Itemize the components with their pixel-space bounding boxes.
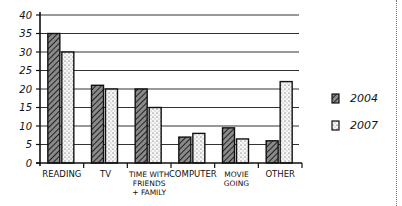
x-axis: READINGTVTIME WITHFRIENDS+ FAMILYCOMPUTE… — [36, 163, 302, 197]
bar-2007 — [62, 52, 74, 163]
y-tick-label: 25 — [19, 65, 32, 76]
x-category-label: + FAMILY — [132, 188, 166, 197]
x-category-label: TIME WITH — [128, 170, 169, 179]
y-tick-label: 40 — [19, 10, 32, 21]
legend: 20042007 — [332, 92, 378, 132]
y-tick-label: 30 — [19, 47, 32, 58]
y-axis: 0510152025303540 — [19, 10, 40, 169]
gridlines — [40, 15, 299, 145]
y-tick-label: 0 — [26, 158, 32, 169]
bar-2007 — [280, 82, 292, 163]
legend-label: 2004 — [350, 92, 378, 105]
bar-2004 — [266, 141, 278, 163]
bar-2004 — [135, 89, 147, 163]
dotted-margin-line — [396, 0, 397, 206]
bar-chart: 0510152025303540 READINGTVTIME WITHFRIEN… — [0, 0, 402, 206]
legend-swatch-2004 — [332, 94, 339, 103]
bar-2007 — [237, 139, 249, 163]
legend-swatch-2007 — [332, 121, 339, 130]
x-category-label: TV — [99, 169, 111, 179]
bar-2004 — [223, 128, 235, 163]
bar-2004 — [48, 34, 60, 164]
bar-2007 — [106, 89, 118, 163]
x-category-label: GOING — [224, 179, 250, 188]
x-category-label: COMPUTER — [169, 169, 217, 179]
y-tick-label: 5 — [26, 139, 32, 150]
x-category-label: MOVIE — [224, 170, 249, 179]
bar-2004 — [179, 137, 191, 163]
y-tick-label: 35 — [19, 28, 32, 39]
x-category-label: FRIENDS — [133, 179, 166, 188]
bar-2007 — [149, 108, 161, 164]
y-tick-label: 10 — [19, 121, 32, 132]
x-category-label: OTHER — [265, 169, 295, 179]
y-tick-label: 20 — [19, 84, 32, 95]
legend-label: 2007 — [350, 119, 378, 132]
bars — [48, 34, 292, 164]
y-tick-label: 15 — [19, 102, 32, 113]
bar-2004 — [92, 85, 104, 163]
x-category-label: READING — [42, 169, 81, 179]
bar-2007 — [193, 133, 205, 163]
